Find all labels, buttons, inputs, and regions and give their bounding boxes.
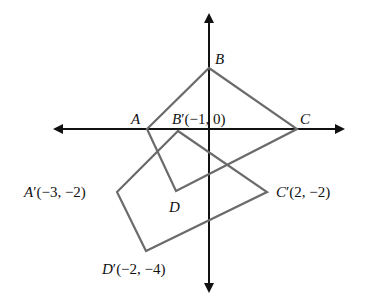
label-d-prime: D′(−2, −4) xyxy=(101,261,166,278)
label-d-prime-coords: (−2, −4) xyxy=(116,261,165,278)
label-b: B xyxy=(215,51,224,67)
label-c-prime: C′(2, −2) xyxy=(276,184,330,201)
label-a: A xyxy=(130,111,141,127)
coordinate-plane-diagram: A B C D B′(−1, 0) A′(−3, −2) C′(2, −2) D… xyxy=(0,0,367,305)
label-c-prime-coords: (2, −2) xyxy=(289,184,330,201)
label-c: C xyxy=(300,111,311,127)
label-d-prime-letter: D xyxy=(101,261,113,277)
label-a-prime: A′(−3, −2) xyxy=(23,184,86,201)
label-a-prime-coords: (−3, −2) xyxy=(36,184,85,201)
label-b-prime-letter: B xyxy=(172,111,181,127)
label-b-prime: B′(−1, 0) xyxy=(172,111,225,128)
quadrilateral-a-prime-b-prime-c-prime-d-prime xyxy=(117,131,267,251)
label-d: D xyxy=(168,199,180,215)
axes xyxy=(55,15,343,291)
label-b-prime-coords: (−1, 0) xyxy=(184,111,225,128)
